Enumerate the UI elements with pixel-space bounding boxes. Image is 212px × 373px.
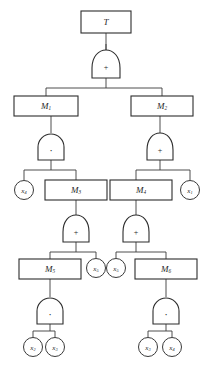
node-x3-bot[interactable]: x3	[46, 338, 65, 357]
wire-gm1-branch	[24, 160, 76, 180]
gate-or-top[interactable]: +	[92, 50, 120, 78]
node-x3-bot2[interactable]: x3	[139, 338, 158, 357]
gate-symbol-or-m4: +	[134, 228, 139, 237]
node-x1-right[interactable]: x1	[181, 181, 200, 200]
wire-gm6-branch	[148, 324, 172, 337]
node-x4-left[interactable]: x4	[15, 181, 34, 200]
gate-or-m4[interactable]: +	[123, 215, 149, 242]
gate-and-m5[interactable]: ·	[37, 298, 63, 324]
fault-tree-diagram: T M1 M2 M3 M4 M5 M6 + ·	[0, 0, 212, 373]
gate-symbol-and-m5: ·	[48, 308, 52, 320]
gate-symbol-and-m6: ·	[164, 308, 168, 320]
gate-symbol-or-top: +	[104, 63, 109, 72]
gate-symbol-or-m2: +	[158, 146, 163, 155]
wire-gm4-branch	[116, 242, 166, 259]
wire-gtop-branch	[46, 78, 162, 96]
node-x5-mid-left[interactable]: x5	[87, 259, 106, 278]
gate-symbol-or-m3: +	[74, 228, 79, 237]
diagram-canvas: T M1 M2 M3 M4 M5 M6 + ·	[0, 0, 212, 373]
wire-gm5-branch	[33, 324, 55, 337]
wire-gm3-branch	[50, 242, 96, 259]
gate-or-m3[interactable]: +	[63, 215, 89, 242]
gate-and-m6[interactable]: ·	[153, 298, 179, 324]
wire-gm2-branch	[136, 160, 190, 180]
gate-symbol-and-m1: ·	[49, 144, 53, 156]
node-x4-bot[interactable]: x4	[163, 338, 182, 357]
gate-and-m1[interactable]: ·	[38, 134, 64, 160]
gate-or-m2[interactable]: +	[147, 133, 173, 160]
node-x2-bot[interactable]: x2	[24, 338, 43, 357]
node-x5-mid-right[interactable]: x5	[107, 259, 126, 278]
